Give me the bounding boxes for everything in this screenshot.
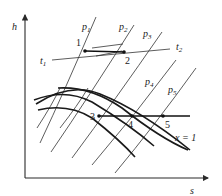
point-5-label: 5 bbox=[165, 119, 170, 130]
isotherm-t1 bbox=[52, 49, 170, 60]
isobar-p3-label: p3 bbox=[142, 28, 152, 41]
isotherm-t2-label: t2 bbox=[176, 41, 183, 54]
isobar-p5-label: p5 bbox=[167, 84, 177, 97]
point-2-label: 2 bbox=[125, 55, 130, 66]
point-4 bbox=[130, 114, 134, 118]
point-3 bbox=[97, 114, 101, 118]
point-2 bbox=[122, 50, 126, 54]
point-1-label: 1 bbox=[76, 37, 81, 48]
h-s-diagram: h s p1 p2 p3 p4 p5 t1 t2 x = 1 1 2 3 4 5 bbox=[0, 0, 222, 196]
point-5 bbox=[161, 114, 165, 118]
h-axis-label: h bbox=[12, 21, 17, 32]
s-axis-label: s bbox=[190, 185, 194, 196]
isobar-p1-label: p1 bbox=[81, 21, 91, 34]
isobar-p2-label: p2 bbox=[118, 21, 128, 34]
process-1-2 bbox=[85, 51, 124, 52]
point-3-label: 3 bbox=[90, 111, 95, 122]
isobar-p4-label: p4 bbox=[144, 76, 154, 89]
isobar-p1 bbox=[40, 17, 96, 143]
point-4-label: 4 bbox=[128, 119, 133, 130]
isotherm-t2-aux bbox=[92, 44, 123, 48]
point-1 bbox=[83, 49, 87, 53]
quality-line-label: x = 1 bbox=[174, 132, 196, 143]
isotherm-t1-label: t1 bbox=[40, 55, 46, 68]
